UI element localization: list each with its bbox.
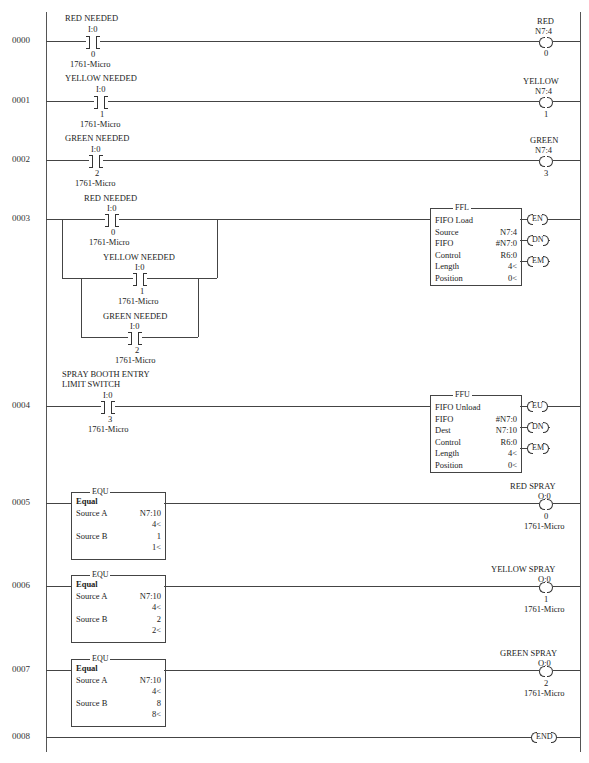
contact-module: 1761-Micro [75,178,116,188]
contact-address: I:0 [91,144,100,154]
eu-output-coil[interactable]: EU [527,401,548,411]
coil-label: GREEN [530,135,558,145]
xic-contact[interactable] [89,155,103,166]
coil-bit: 2 [544,678,548,688]
coil-label: GREEN SPRAY [500,648,557,658]
dn-output-coil[interactable]: DN [527,422,549,432]
coil-label: YELLOW [523,76,559,86]
contact-bit: 1 [140,286,144,296]
block-mnemonic: EQU [90,653,110,665]
contact-address: I:0 [96,84,105,94]
rung-number: 0005 [12,497,30,507]
contact-label: GREEN NEEDED [65,133,129,143]
contact-label-line2: LIMIT SWITCH [62,379,120,389]
rung-number: 0007 [12,664,30,674]
branch-line [217,219,218,278]
xic-contact[interactable] [86,36,100,47]
rung-number: 0001 [12,95,30,105]
contact-label: RED NEEDED [65,13,118,23]
contact-address: I:0 [88,24,97,34]
contact-label: RED NEEDED [84,193,137,203]
block-name: FIFO Load [435,215,473,227]
ote-coil[interactable] [539,37,553,47]
contact-label: SPRAY BOOTH ENTRY [62,369,150,379]
contact-address: I:0 [107,203,116,213]
xic-contact-red-needed[interactable] [105,214,119,225]
coil-bit: 0 [544,48,548,58]
contact-bit: 2 [95,168,99,178]
block-mnemonic: FFU [453,389,472,401]
rung-number: 0002 [12,154,30,164]
block-mnemonic: FFL [453,202,471,214]
contact-module: 1761-Micro [80,119,121,129]
xic-contact[interactable] [101,401,115,412]
branch-line [62,219,63,278]
coil-address: N7:4 [535,86,552,96]
coil-bit: 1 [544,594,548,604]
coil-label: RED [537,16,554,26]
right-power-rail [580,12,581,752]
rung-number: 0004 [12,400,30,410]
xic-contact[interactable] [94,96,108,107]
coil-label: RED SPRAY [510,481,556,491]
ote-coil[interactable] [539,97,553,107]
coil-bit: 3 [544,168,548,178]
block-mnemonic: EQU [90,486,110,498]
coil-bit: 0 [544,511,548,521]
equ-instruction-block[interactable]: EQU Equal Source AN7:10 4< Source B8 8< [71,659,166,727]
ffu-instruction-block[interactable]: FFU FIFO Unload FIFO#N7:0 DestN7:10 Cont… [430,395,522,473]
contact-label: YELLOW NEEDED [103,252,175,262]
rung-number: 0000 [12,35,30,45]
left-power-rail [46,12,47,752]
contact-label: YELLOW NEEDED [65,73,137,83]
ote-coil[interactable] [539,582,553,592]
equ-instruction-block[interactable]: EQU Equal Source AN7:10 4< Source B2 2< [71,575,166,643]
contact-bit: 0 [91,49,95,59]
contact-module: 1761-Micro [70,59,111,69]
contact-bit: 0 [111,227,115,237]
branch-line [81,278,82,337]
dn-output-coil[interactable]: DN [527,235,549,245]
coil-label: YELLOW SPRAY [491,564,555,574]
coil-address: N7:4 [535,26,552,36]
coil-bit: 1 [544,109,548,119]
contact-module: 1761-Micro [115,355,156,365]
xic-contact-green-needed[interactable] [128,332,142,343]
contact-address: I:0 [135,262,144,272]
contact-bit: 3 [108,414,112,424]
ffl-instruction-block[interactable]: FFL FIFO Load SourceN7:4 FIFO#N7:0 Contr… [430,208,522,286]
ote-coil[interactable] [539,499,553,509]
contact-module: 1761-Micro [89,237,130,247]
block-name: FIFO Unload [435,402,481,414]
em-output-coil[interactable]: EM [527,443,549,453]
coil-module: 1761-Micro [524,604,565,614]
branch-line [198,278,199,337]
coil-module: 1761-Micro [524,521,565,531]
coil-address: N7:4 [535,145,552,155]
contact-address: I:0 [130,321,139,331]
contact-label: GREEN NEEDED [103,311,167,321]
contact-module: 1761-Micro [88,424,129,434]
contact-bit: 1 [100,109,104,119]
end-instruction[interactable]: END [531,732,557,742]
rung-number: 0003 [12,213,30,223]
rung-number: 0008 [12,731,30,741]
block-mnemonic: EQU [90,569,110,581]
contact-bit: 2 [135,345,139,355]
xic-contact-yellow-needed[interactable] [133,273,147,284]
rung-number: 0006 [12,580,30,590]
en-output-coil[interactable]: EN [527,214,548,224]
ote-coil[interactable] [539,666,553,676]
contact-module: 1761-Micro [118,296,159,306]
contact-address: I:0 [103,390,112,400]
ote-coil[interactable] [539,156,553,166]
coil-module: 1761-Micro [524,688,565,698]
em-output-coil[interactable]: EM [527,256,549,266]
equ-instruction-block[interactable]: EQU Equal Source AN7:10 4< Source B1 1< [71,492,166,560]
